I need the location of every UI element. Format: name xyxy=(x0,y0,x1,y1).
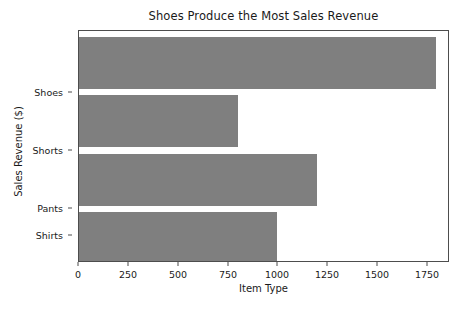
x-tick-label-1000: 1000 xyxy=(265,269,289,280)
y-tick-label-shorts: Shorts xyxy=(33,145,63,156)
x-tick-mark xyxy=(228,262,229,266)
bar-pants xyxy=(79,154,317,206)
y-tick-mark xyxy=(68,208,72,209)
x-tick-label-1750: 1750 xyxy=(415,269,439,280)
y-tick-label-shirts: Shirts xyxy=(36,230,63,241)
bar-shoes xyxy=(79,37,436,89)
x-tick-mark xyxy=(178,262,179,266)
chart-title: Shoes Produce the Most Sales Revenue xyxy=(78,9,449,23)
y-tick-label-pants: Pants xyxy=(37,203,63,214)
x-tick-label-500: 500 xyxy=(169,269,187,280)
x-tick-mark xyxy=(427,262,428,266)
x-tick-label-1500: 1500 xyxy=(365,269,389,280)
y-tick-mark xyxy=(68,150,72,151)
y-axis-tick-labels: Shoes Shorts Pants Shirts xyxy=(0,30,72,262)
x-tick-mark xyxy=(327,262,328,266)
x-tick-mark xyxy=(78,262,79,266)
bar-shirts xyxy=(79,212,277,262)
chart-figure: Shoes Produce the Most Sales Revenue Sal… xyxy=(0,0,464,312)
x-tick-mark xyxy=(128,262,129,266)
x-tick-label-0: 0 xyxy=(75,269,81,280)
x-axis-title: Item Type xyxy=(78,283,449,294)
x-tick-label-750: 750 xyxy=(219,269,237,280)
x-tick-label-250: 250 xyxy=(119,269,137,280)
bar-shorts xyxy=(79,95,238,147)
y-tick-mark xyxy=(68,235,72,236)
x-tick-mark xyxy=(377,262,378,266)
x-tick-label-1250: 1250 xyxy=(315,269,339,280)
x-axis-tick-labels: 0 250 500 750 1000 1250 1500 1750 xyxy=(78,262,449,284)
y-tick-mark xyxy=(68,92,72,93)
x-tick-mark xyxy=(277,262,278,266)
plot-area xyxy=(78,30,449,262)
y-tick-label-shoes: Shoes xyxy=(34,87,63,98)
